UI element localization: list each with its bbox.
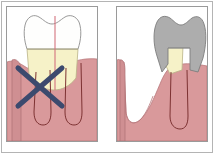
dental-illustration-figure: Vertical root fracture treatment compari…	[0, 0, 214, 154]
adjacent-gingival-papilla	[120, 60, 125, 141]
illustration-canvas	[0, 0, 214, 154]
fractured-tooth-panel	[7, 7, 98, 142]
crowned-tooth-panel	[117, 7, 208, 142]
